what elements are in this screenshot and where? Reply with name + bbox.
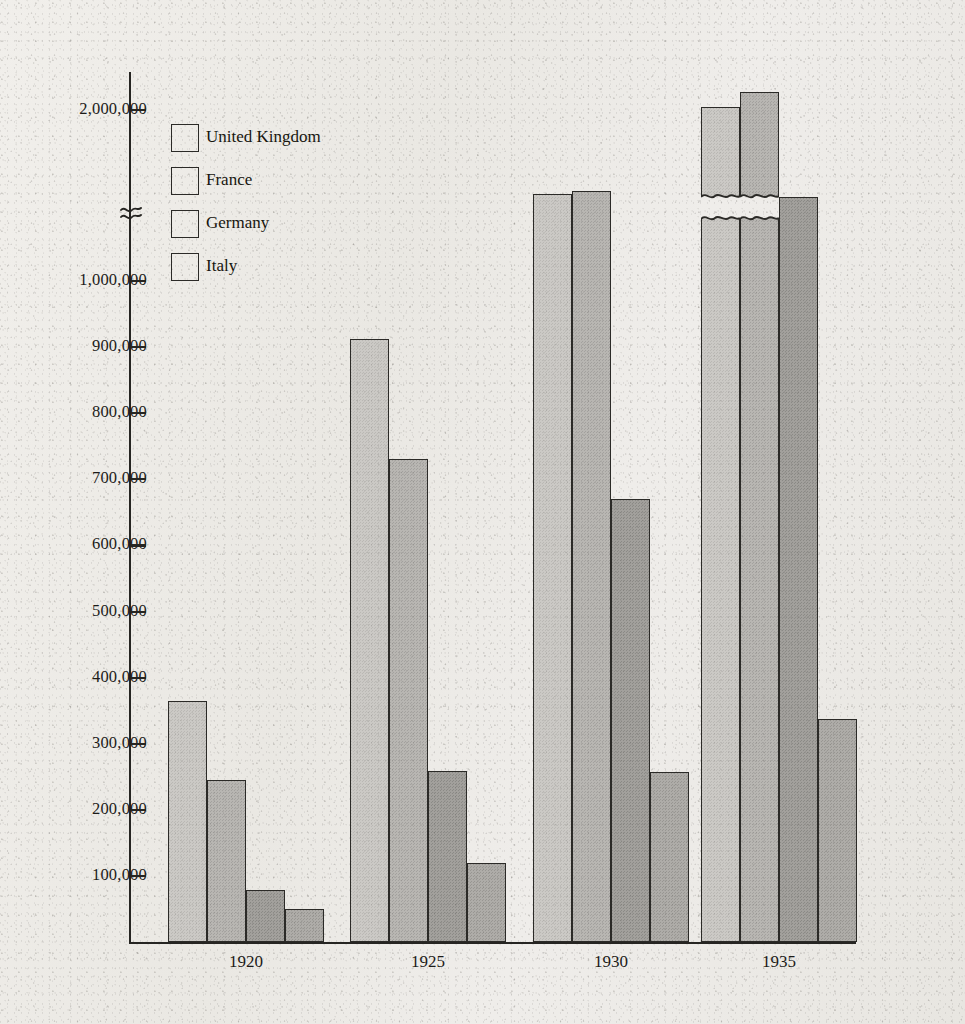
x-label-1935: 1935	[719, 952, 839, 972]
legend-label: France	[206, 170, 252, 190]
bar-1935-united-kingdom-lower	[701, 218, 740, 942]
bar-1935-united-kingdom-upper	[701, 107, 740, 196]
bar-1925-france	[389, 459, 428, 942]
bar-1935-france-upper	[740, 92, 779, 196]
legend-swatch-icon	[171, 167, 199, 195]
bar-1920-germany	[246, 890, 285, 942]
axis-break-icon	[120, 203, 142, 222]
y-tick-mark	[131, 875, 146, 877]
bar-1930-united-kingdom	[533, 194, 572, 942]
y-tick-mark	[131, 611, 146, 613]
y-tick-mark	[131, 544, 146, 546]
y-tick-mark	[131, 346, 146, 348]
bar-1925-germany	[428, 771, 467, 942]
legend-label: Germany	[206, 213, 269, 233]
bar-1925-united-kingdom	[350, 339, 389, 942]
bar-1930-germany	[611, 499, 650, 942]
legend-swatch-icon	[171, 253, 199, 281]
bar-chart: 100,000200,000300,000400,000500,000600,0…	[0, 0, 965, 1024]
x-label-1925: 1925	[368, 952, 488, 972]
y-tick-mark	[131, 109, 146, 111]
y-tick-mark	[131, 478, 146, 480]
bar-1920-france	[207, 780, 246, 942]
x-axis-line	[129, 942, 856, 944]
chart-page: 100,000200,000300,000400,000500,000600,0…	[0, 0, 965, 1024]
y-tick-mark	[131, 280, 146, 282]
legend-label: United Kingdom	[206, 127, 321, 147]
y-tick-mark	[131, 677, 146, 679]
y-tick-mark	[131, 412, 146, 414]
legend-swatch-icon	[171, 210, 199, 238]
bar-1935-germany	[779, 197, 818, 942]
x-label-1920: 1920	[186, 952, 306, 972]
bar-1925-italy	[467, 863, 506, 942]
legend-label: Italy	[206, 256, 237, 276]
legend-swatch-icon	[171, 124, 199, 152]
bar-1930-france	[572, 191, 611, 942]
bar-1935-italy	[818, 719, 857, 942]
y-tick-mark	[131, 809, 146, 811]
bar-1930-italy	[650, 772, 689, 942]
y-tick-mark	[131, 743, 146, 745]
x-label-1930: 1930	[551, 952, 671, 972]
bar-1920-united-kingdom	[168, 701, 207, 942]
bar-1920-italy	[285, 909, 324, 942]
bar-1935-france-lower	[740, 218, 779, 942]
